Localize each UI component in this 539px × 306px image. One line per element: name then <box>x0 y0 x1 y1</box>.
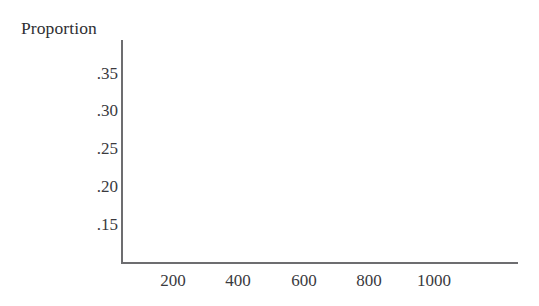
x-axis-line <box>121 262 518 264</box>
y-axis-tick-label: .30 <box>58 102 118 119</box>
chart-figure: Proportion .35.30.25.20.15 2004006008001… <box>0 0 539 306</box>
x-axis-tick-label: 1000 <box>394 272 474 290</box>
y-axis-tick-label: .15 <box>58 216 118 233</box>
y-axis-tick-label: .25 <box>58 140 118 157</box>
y-axis-tick-label: .20 <box>58 178 118 195</box>
plot-area <box>123 40 518 262</box>
y-axis-tick-label-group: .35.30.25.20.15 <box>57 0 118 306</box>
y-axis-tick-label: .35 <box>58 65 118 82</box>
y-axis-line <box>121 40 123 264</box>
